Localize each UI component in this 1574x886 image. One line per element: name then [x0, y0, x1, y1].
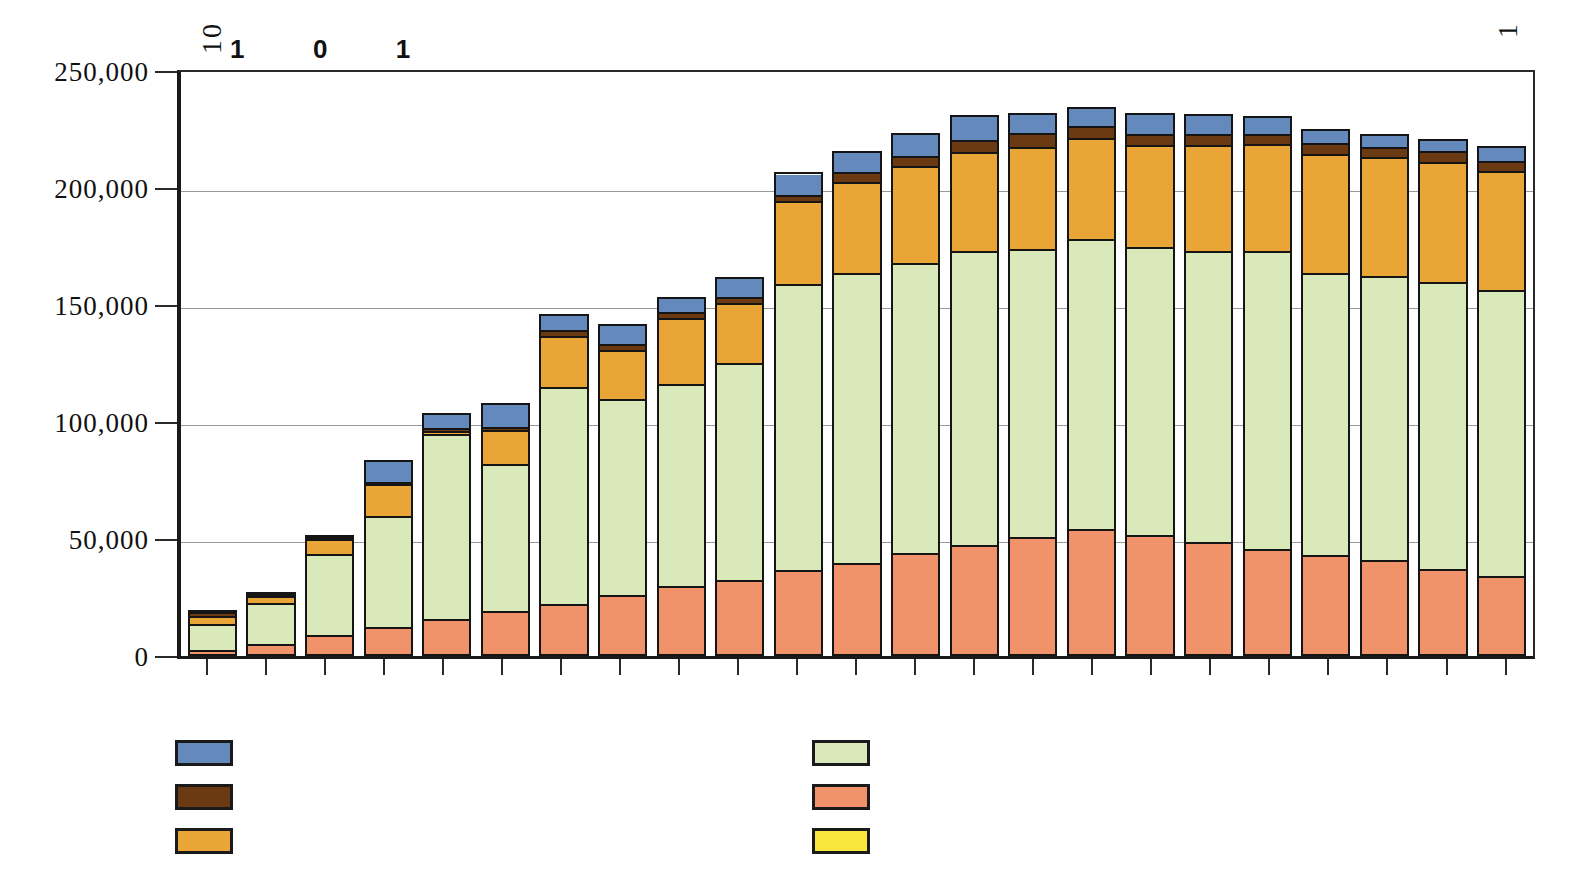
stacked-bar[interactable] [246, 592, 295, 656]
bar-segment-salmon [1245, 551, 1290, 654]
bar-segment-blue [1069, 109, 1114, 128]
stacked-bar[interactable] [364, 460, 413, 656]
bar-segment-orange [600, 352, 645, 402]
legend-item[interactable] [812, 779, 886, 815]
x-axis-tick [708, 659, 767, 677]
x-axis-tick [236, 659, 295, 677]
bar-slot [1297, 72, 1356, 656]
bar-segment-blue [1362, 136, 1407, 149]
bar-segment-salmon [483, 613, 528, 654]
x-axis-tick [531, 659, 590, 677]
bar-slot [945, 72, 1004, 656]
bar-slot [359, 72, 418, 656]
bar-segment-blue [776, 175, 821, 197]
stacked-bar[interactable] [188, 610, 237, 656]
bar-segment-brown [893, 158, 938, 168]
stacked-bar[interactable] [1301, 129, 1350, 656]
bar-segment-blue [1479, 148, 1524, 163]
stacked-bar[interactable] [481, 403, 530, 656]
stacked-bar[interactable] [305, 535, 354, 656]
x-axis-tick [1299, 659, 1358, 677]
bar-segment-blue [1010, 115, 1055, 135]
bar-segment-salmon [1069, 531, 1114, 654]
x-axis-tick [649, 659, 708, 677]
salmon-swatch [812, 784, 870, 810]
stacked-bar[interactable] [1477, 146, 1526, 656]
bar-segment-green [952, 253, 997, 547]
x-tick-marks [177, 659, 1535, 677]
legend-item[interactable] [175, 779, 249, 815]
stacked-bar[interactable] [1125, 113, 1174, 656]
bar-segment-green [1303, 275, 1348, 557]
stacked-bar[interactable] [1360, 134, 1409, 656]
stacked-bar[interactable] [774, 172, 823, 656]
legend-item[interactable] [812, 735, 886, 771]
top-annotation-label: 1 0 1 [230, 34, 428, 65]
stacked-bar[interactable] [657, 297, 706, 656]
y-axis-tick-label: 100,000 [54, 408, 149, 439]
bar-segment-green [1010, 251, 1055, 540]
bar-segment-orange [952, 154, 997, 253]
bar-segment-salmon [366, 629, 411, 654]
x-axis-tick [354, 659, 413, 677]
bar-segment-salmon [717, 582, 762, 654]
bar-segment-orange [307, 541, 352, 556]
bar-segment-orange [483, 432, 528, 465]
bar-segment-orange [190, 618, 235, 626]
x-axis-tick [945, 659, 1004, 677]
bar-segment-salmon [659, 588, 704, 654]
bar-segment-green [600, 401, 645, 597]
bar-segment-orange [893, 168, 938, 264]
stacked-bar[interactable] [832, 151, 881, 656]
y-axis-tick-label: 150,000 [54, 291, 149, 322]
stacked-bar[interactable] [598, 324, 647, 656]
bar-segment-brown [1303, 145, 1348, 155]
legend-item[interactable] [175, 735, 249, 771]
bar-segment-blue [1303, 131, 1348, 145]
bar-segment-blue [600, 326, 645, 346]
stacked-bar[interactable] [715, 277, 764, 656]
stacked-bar[interactable] [891, 133, 940, 656]
bar-slot [1062, 72, 1121, 656]
stacked-bar[interactable] [1008, 113, 1057, 656]
legend-item[interactable] [175, 823, 249, 859]
bar-segment-blue [424, 415, 469, 430]
bar-segment-green [893, 265, 938, 556]
green-swatch [812, 740, 870, 766]
bar-segment-salmon [834, 565, 879, 654]
bar-segment-brown [1186, 136, 1231, 148]
y-axis-tick-label: 50,000 [69, 525, 149, 556]
stacked-bar[interactable] [1184, 114, 1233, 656]
bar-segment-blue [541, 316, 586, 332]
x-axis-tick [886, 659, 945, 677]
x-axis-tick [827, 659, 886, 677]
bar-segment-orange [1186, 147, 1231, 253]
bar-segment-blue [1245, 118, 1290, 135]
bar-slot [1355, 72, 1414, 656]
stacked-bar[interactable] [539, 314, 588, 656]
x-axis-tick [413, 659, 472, 677]
stacked-bar[interactable] [1067, 107, 1116, 656]
bar-segment-orange [1362, 159, 1407, 278]
stacked-bar[interactable] [1243, 116, 1292, 656]
bar-segment-salmon [1303, 557, 1348, 654]
bar-segment-green [366, 518, 411, 629]
bar-segment-green [541, 389, 586, 606]
stacked-bar[interactable] [950, 115, 999, 656]
orange-swatch [175, 828, 233, 854]
x-axis-label-left: 10 [196, 22, 228, 54]
bar-segment-orange [834, 184, 879, 276]
bar-segment-green [834, 275, 879, 565]
stacked-bar[interactable] [422, 413, 471, 656]
y-axis-tick-label: 200,000 [54, 174, 149, 205]
bar-segment-green [1362, 278, 1407, 562]
y-axis-tick-mark [155, 188, 177, 190]
legend-item[interactable] [812, 823, 886, 859]
x-axis-tick [1240, 659, 1299, 677]
y-axis: 250,000200,000150,000100,00050,0000 [0, 70, 177, 659]
y-axis-tick-mark [155, 656, 177, 658]
bar-segment-brown [1479, 163, 1524, 173]
bar-segment-brown [1010, 135, 1055, 149]
stacked-bar[interactable] [1418, 139, 1467, 656]
bar-slot [652, 72, 711, 656]
